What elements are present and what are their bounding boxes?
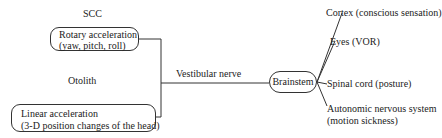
scc-label: SCC <box>83 8 102 20</box>
output-spinal-cord: Spinal cord (posture) <box>327 78 411 90</box>
vestibular-nerve-label: Vestibular nerve <box>176 68 241 80</box>
brainstem-box: Brainstem <box>269 71 317 93</box>
output-autonomic: Autonomic nervous system (motion sicknes… <box>327 103 436 127</box>
output-eyes: Eyes (VOR) <box>330 36 380 48</box>
otolith-line1: Linear acceleration <box>21 108 155 120</box>
brainstem-label: Brainstem <box>270 76 316 88</box>
otolith-label: Otolith <box>68 75 96 87</box>
otolith-box: Linear acceleration (3-D position change… <box>11 104 156 132</box>
output-cortex: Cortex (conscious sensation) <box>326 7 442 19</box>
output-autonomic-line2: (motion sickness) <box>327 115 436 127</box>
output-autonomic-line1: Autonomic nervous system <box>327 103 436 115</box>
scc-line2: (yaw, pitch, roll) <box>59 40 138 52</box>
scc-box: Rotary acceleration (yaw, pitch, roll) <box>50 27 139 51</box>
otolith-line2: (3-D position changes of the head) <box>21 120 155 132</box>
